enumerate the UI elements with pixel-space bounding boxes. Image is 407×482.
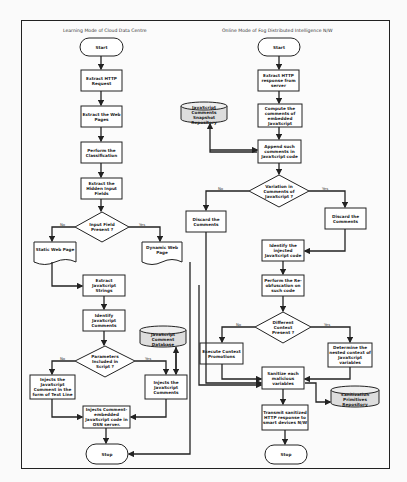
snapshot-repository: JavaScript Comments Snapshot Repository bbox=[181, 109, 227, 121]
transmit-response-step: Transmit sanitized HTTP response to smar… bbox=[262, 405, 308, 430]
classification-step: Perform the Classification bbox=[81, 142, 122, 163]
branch-no-label: No bbox=[236, 322, 241, 327]
parameters-decision: Parameters Included in Script ? bbox=[87, 353, 123, 369]
branch-yes-label: Yes bbox=[324, 322, 330, 327]
left-start-terminal: Start bbox=[80, 38, 123, 56]
variation-decision: Variation in Comments of JavaScript ? bbox=[261, 183, 297, 199]
inject-comments-step: Injects the JavaScript Comments bbox=[145, 375, 187, 399]
extract-web-pages-step: Extract the Web Pages bbox=[81, 106, 122, 127]
inject-text-line-step: Injects the JavaScript Comment in the fo… bbox=[30, 375, 75, 399]
extract-http-response-step: Extract HTTP response from server bbox=[258, 70, 299, 91]
identify-js-comments-step: Identify JavaScript Comments bbox=[83, 310, 125, 331]
discard-comments-left-step: Discard the Comments bbox=[186, 211, 226, 232]
context-decision: Different Context Present ? bbox=[266, 319, 300, 335]
branch-yes-label: Yes bbox=[322, 186, 328, 191]
static-web-page-doc: Static Web Page bbox=[34, 242, 76, 257]
branch-no-label: No bbox=[60, 222, 65, 227]
extract-http-request-step: Extract HTTP Request bbox=[81, 70, 122, 91]
dynamic-web-page-doc: Dynamic Web Page bbox=[142, 242, 182, 257]
re-obfuscation-step: Perform the Re-obfuscation on such code bbox=[262, 275, 304, 296]
branch-yes-label: Yes bbox=[145, 356, 151, 361]
left-stop-terminal: Stop bbox=[86, 444, 128, 464]
identify-injected-code-step: Identify the injected JavaScript code bbox=[262, 240, 304, 261]
branch-yes-label: Yes bbox=[139, 222, 145, 227]
right-panel-title: Online Mode of Fog Distributed Intellige… bbox=[222, 28, 333, 33]
sanitization-repository: Sanitization Primitives Repository bbox=[331, 393, 379, 405]
branch-no-label: No bbox=[218, 186, 223, 191]
left-panel-title: Learning Mode of Cloud Data Centre bbox=[63, 28, 147, 33]
extract-js-strings-step: Extract JavaScript Strings bbox=[83, 275, 125, 296]
comment-database: JavaScript Comment Database bbox=[140, 333, 186, 345]
branch-no-label: No bbox=[60, 356, 65, 361]
determine-context-step: Determine the nested context of JavaScri… bbox=[328, 343, 372, 367]
compute-comments-step: Compute the comments of embedded JavaScr… bbox=[258, 104, 302, 127]
right-stop-terminal: Stop bbox=[265, 445, 307, 464]
append-comments-step: Append such comments in JavaScript code bbox=[258, 140, 301, 163]
execute-promotions-step: Execute Context Promotions bbox=[200, 343, 243, 364]
right-start-terminal: Start bbox=[258, 38, 300, 56]
inject-embedded-code-step: Injects Comment-embedded JavaScript code… bbox=[83, 406, 130, 428]
input-field-decision: Input Field Present ? bbox=[85, 220, 119, 234]
discard-comments-right-step: Discard the Comments bbox=[325, 208, 366, 229]
flowchart-connectors bbox=[0, 0, 407, 482]
hidden-fields-step: Extract the Hidden Input Fields bbox=[81, 178, 122, 199]
sanitize-variables-step: Sanitize each malicious variables bbox=[262, 367, 304, 389]
